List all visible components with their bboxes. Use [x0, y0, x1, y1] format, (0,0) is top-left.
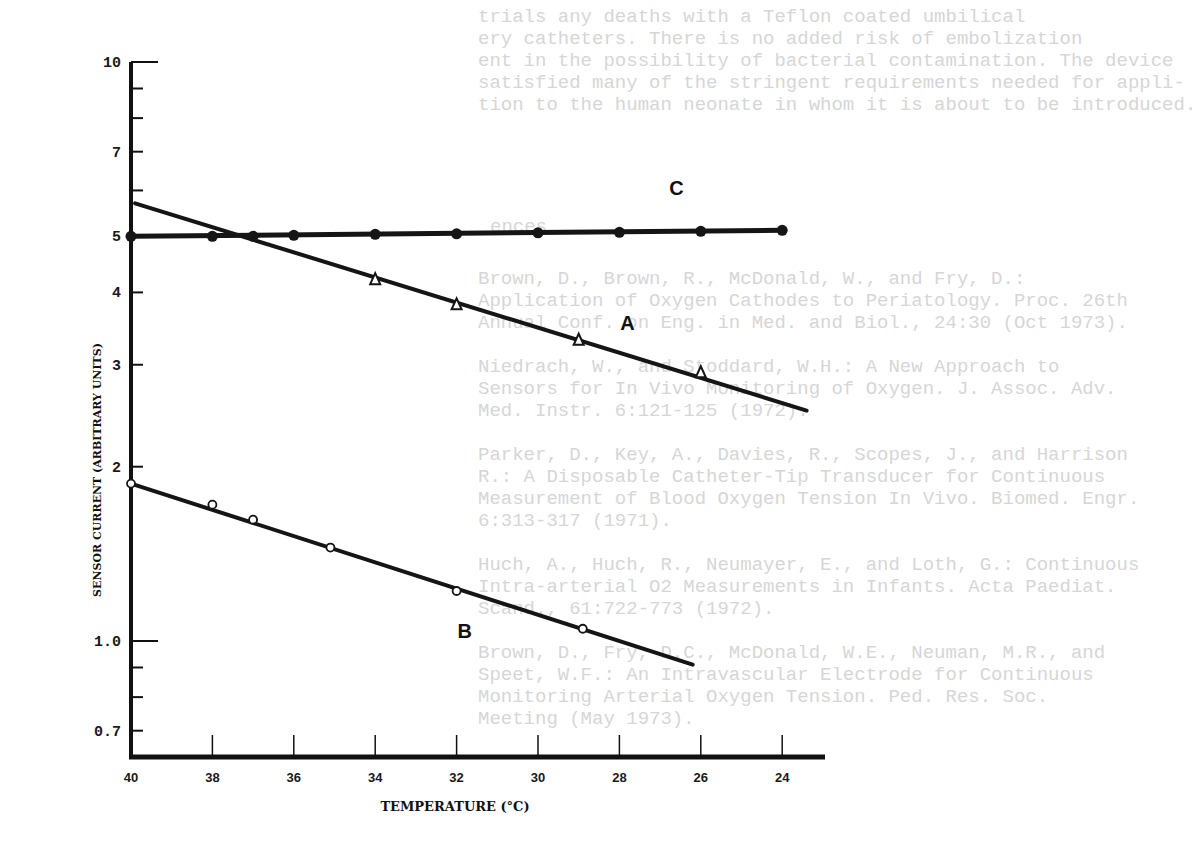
y-tick-label: 1.0 [94, 634, 121, 651]
data-point-filled-circle [288, 230, 299, 241]
data-point-filled-circle [614, 227, 625, 238]
x-tick-label: 26 [694, 770, 708, 785]
series-label-a: A [620, 312, 634, 334]
x-axis: 403836343230282624 [124, 735, 825, 785]
y-tick-label: 2 [112, 460, 121, 477]
y-tick-label: 3 [112, 358, 121, 375]
series-b-line [131, 484, 693, 665]
y-tick-label: 4 [112, 285, 121, 302]
series-label-b: B [458, 620, 472, 642]
data-point-filled-circle [777, 225, 788, 236]
data-point-filled-circle [533, 227, 544, 238]
x-tick-label: 28 [612, 770, 626, 785]
data-point-filled-circle [451, 228, 462, 239]
y-tick-label: 5 [112, 229, 121, 246]
data-point-open-circle [579, 625, 587, 633]
data-point-filled-circle [370, 229, 381, 240]
series-b [127, 480, 693, 665]
data-point-open-triangle [574, 334, 584, 345]
data-point-open-circle [453, 587, 461, 595]
x-tick-label: 34 [368, 770, 383, 785]
data-point-filled-circle [207, 231, 218, 242]
series-c [126, 225, 788, 242]
x-tick-label: 40 [124, 770, 138, 785]
series-layer: CAB [126, 177, 807, 665]
data-point-open-circle [127, 480, 135, 488]
y-tick-label: 7 [112, 145, 121, 162]
y-tick-label: 0.7 [94, 724, 121, 741]
x-tick-label: 32 [449, 770, 463, 785]
data-point-open-circle [208, 501, 216, 509]
data-point-filled-circle [695, 226, 706, 237]
x-tick-label: 24 [775, 770, 790, 785]
series-label-c: C [669, 177, 683, 199]
y-tick-label: 10 [103, 55, 121, 72]
y-axis-title: SENSOR CURRENT (ARBITRARY UNITS) [91, 343, 104, 597]
data-point-open-circle [249, 516, 257, 524]
data-point-filled-circle [126, 231, 137, 242]
data-point-open-circle [326, 544, 334, 552]
x-tick-label: 38 [205, 770, 219, 785]
x-tick-label: 30 [531, 770, 545, 785]
data-point-open-triangle [696, 366, 706, 377]
x-tick-label: 36 [287, 770, 301, 785]
x-axis-title: TEMPERATURE (°C) [380, 799, 529, 814]
